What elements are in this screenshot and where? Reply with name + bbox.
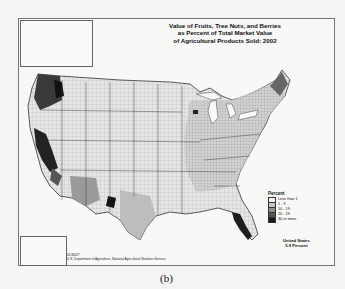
title-line: Value of Fruits, Tree Nuts, and Berries [140, 22, 310, 29]
map-source: U.S. Department of Agriculture, National… [67, 257, 166, 261]
hawaii-inset-frame [20, 236, 67, 266]
legend-label: 30 or more [278, 217, 296, 222]
title-line: as Percent of Total Market Value [140, 29, 310, 36]
legend-item: 30 or more [268, 217, 298, 222]
map-title: Value of Fruits, Tree Nuts, and Berries … [140, 22, 310, 44]
map-legend: Percent Less than 1 1 - 9 10 - 19 20 - 2… [268, 191, 298, 222]
legend-title: Percent [268, 191, 298, 196]
figure-caption: (b) [160, 272, 173, 284]
us-summary: United States 5.9 Percent [283, 238, 310, 248]
summary-value: 5.9 Percent [283, 243, 310, 248]
legend-swatch [268, 217, 276, 223]
map-credit: 02-M027 U.S. Department of Agriculture, … [67, 253, 166, 261]
title-line: of Agricultural Products Sold: 2002 [140, 37, 310, 44]
alaska-inset-frame [20, 20, 93, 67]
